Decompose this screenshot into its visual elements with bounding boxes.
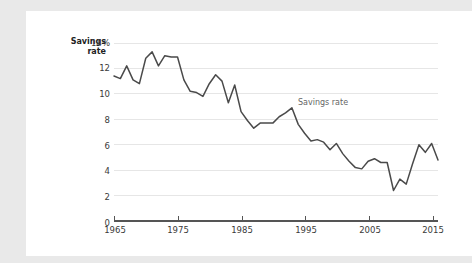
chart-plot-area [26,11,472,256]
x-tick-label-1995: 1995 [289,225,323,235]
x-tick-label-1975: 1975 [161,225,195,235]
x-tick-label-2015: 2015 [416,225,450,235]
x-tick-label-1965: 1965 [98,225,132,235]
savings-rate-line-chart: Savings rate 14% 12 10 8 6 4 2 0 [26,11,472,256]
x-tick-label-1985: 1985 [225,225,259,235]
x-tick-label-2005: 2005 [353,225,387,235]
chart-card: Savings rate 14% 12 10 8 6 4 2 0 [26,11,472,256]
x-axis [114,216,438,221]
series-annotation-savings-rate: Savings rate [298,98,348,107]
